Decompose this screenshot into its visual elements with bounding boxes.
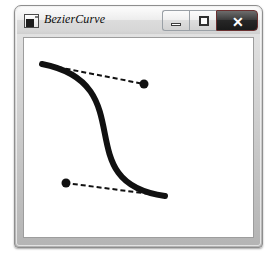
application-window: BezierCurve ✕ bbox=[14, 5, 263, 248]
maximize-button[interactable] bbox=[189, 10, 216, 31]
start-tangent-handle[interactable] bbox=[140, 80, 149, 89]
client-area bbox=[23, 37, 254, 238]
window-controls: ✕ bbox=[162, 10, 258, 31]
end-tangent-handle[interactable] bbox=[62, 179, 71, 188]
close-icon: ✕ bbox=[217, 11, 259, 32]
form-window-icon bbox=[24, 14, 39, 28]
window-title: BezierCurve bbox=[44, 12, 105, 27]
minimize-button[interactable] bbox=[162, 10, 189, 31]
close-button[interactable]: ✕ bbox=[216, 10, 258, 31]
minimize-icon bbox=[171, 23, 181, 26]
maximize-icon bbox=[199, 16, 209, 26]
bezier-curve-drawing bbox=[24, 38, 253, 237]
title-bar[interactable]: BezierCurve ✕ bbox=[17, 8, 260, 34]
